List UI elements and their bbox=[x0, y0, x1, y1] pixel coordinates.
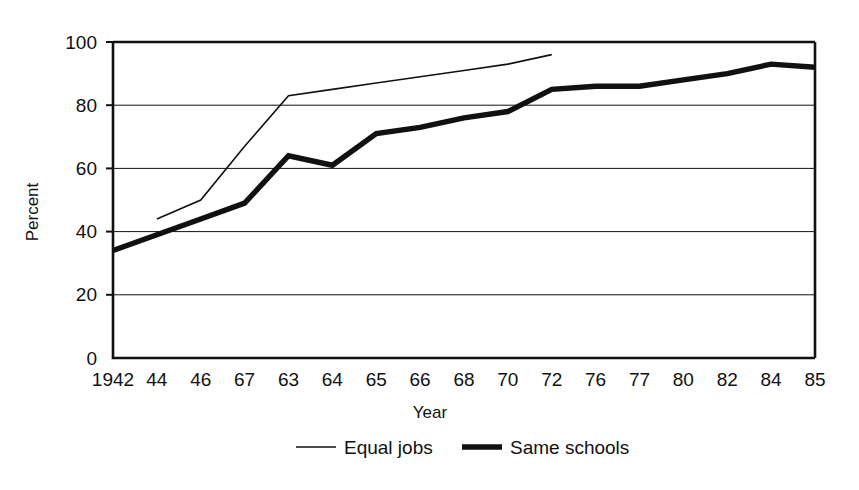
x-axis-title: Year bbox=[413, 403, 448, 422]
y-tick-label-40: 40 bbox=[76, 221, 97, 242]
x-tick-label-66: 66 bbox=[410, 369, 431, 390]
x-tick-label-80: 80 bbox=[673, 369, 694, 390]
x-tick-label-72: 72 bbox=[541, 369, 562, 390]
legend-label-same-schools: Same schools bbox=[510, 437, 629, 458]
x-tick-label-65: 65 bbox=[366, 369, 387, 390]
gridlines bbox=[113, 105, 815, 295]
x-tick-label-46: 46 bbox=[190, 369, 211, 390]
x-tick-label-67: 67 bbox=[234, 369, 255, 390]
x-tick-label-77: 77 bbox=[629, 369, 650, 390]
y-tick-label-60: 60 bbox=[76, 158, 97, 179]
axis-spines bbox=[113, 42, 815, 358]
x-tick-label-76: 76 bbox=[585, 369, 606, 390]
legend-label-equal-jobs: Equal jobs bbox=[344, 437, 433, 458]
x-tick-label-82: 82 bbox=[717, 369, 738, 390]
line-chart-figure: 100 80 60 40 20 0 Percent 19424446676364… bbox=[0, 0, 859, 490]
x-tick-label-68: 68 bbox=[453, 369, 474, 390]
x-tick-label-84: 84 bbox=[761, 369, 783, 390]
x-tick-label-1942: 1942 bbox=[92, 369, 134, 390]
x-tick-label-70: 70 bbox=[497, 369, 518, 390]
x-tick-label-63: 63 bbox=[278, 369, 299, 390]
series-line-equal-jobs bbox=[157, 55, 552, 219]
x-tick-label-64: 64 bbox=[322, 369, 344, 390]
chart-legend: Equal jobs Same schools bbox=[296, 437, 629, 458]
x-tick-label-44: 44 bbox=[146, 369, 168, 390]
chart-canvas: 100 80 60 40 20 0 Percent 19424446676364… bbox=[0, 0, 859, 490]
y-axis-tick-labels: 100 80 60 40 20 0 bbox=[65, 32, 97, 369]
y-tick-label-100: 100 bbox=[65, 32, 97, 53]
series-line-same-schools bbox=[113, 64, 815, 250]
x-axis-tick-labels: 194244466763646566687072767780828485 bbox=[92, 369, 826, 390]
y-tick-label-20: 20 bbox=[76, 284, 97, 305]
y-tick-label-80: 80 bbox=[76, 95, 97, 116]
x-tick-label-85: 85 bbox=[804, 369, 825, 390]
y-axis-title: Percent bbox=[23, 182, 42, 241]
y-tick-label-0: 0 bbox=[86, 348, 97, 369]
